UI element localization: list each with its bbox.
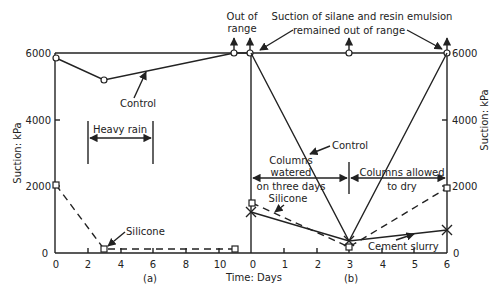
heavy-rain-label: Heavy rain [93,124,147,135]
series-silicone-a [53,182,238,252]
xtick-b-0: 0 [250,259,256,270]
silicone-label-b: Silicone [269,193,308,204]
xtick-b-6: 6 [444,259,450,270]
xtick-b-5: 5 [412,259,418,270]
y-axis-title-right: Suction: kPa [479,89,490,150]
out-of-range-arrows [234,38,250,50]
xtick-a-4: 4 [118,259,124,270]
panel-label-b: (b) [344,273,358,284]
ytick-right-4000: 4000 [452,115,477,126]
out-of-range-label-1: Out of [227,11,258,22]
ytick-left-2000: 2000 [26,181,51,192]
xtick-b-1: 1 [282,259,288,270]
silicone-label-a: Silicone [126,226,165,237]
control-label-a: Control [120,98,156,109]
columns-dry-label-1: Columns allowed [359,167,444,178]
xtick-a-6: 6 [150,259,156,270]
ytick-right-0: 0 [453,248,459,259]
silane-label-1: Suction of silane and resin emulsion [272,11,453,22]
axes [55,53,447,253]
ytick-left-4000: 4000 [26,115,51,126]
cement-slurry-label: Cement slurry [368,241,439,252]
xtick-a-10: 10 [214,259,227,270]
x-axis-title: Time: Days [225,272,282,283]
xtick-a-2: 2 [85,259,91,270]
series-control-a [53,50,253,83]
ytick-right-2000: 2000 [452,181,477,192]
ytick-left-6000: 6000 [26,48,51,59]
ytick-right-6000: 6000 [452,48,477,59]
silane-label-2: remained out of range [293,25,405,36]
xtick-a-8: 8 [183,259,189,270]
y-axis-title-left: Suction: kPa [12,122,23,183]
suction-chart: 6000 4000 2000 0 6000 4000 2000 0 Suctio… [0,0,496,296]
columns-watered-label-3: on three days [257,181,326,192]
panel-label-a: (a) [143,273,157,284]
control-label-b: Control [332,140,368,151]
xtick-a-0: 0 [53,259,59,270]
xtick-b-2: 2 [315,259,321,270]
out-of-range-label-2: range [227,23,256,34]
columns-dry-label-2: to dry [387,181,417,192]
xtick-b-4: 4 [380,259,386,270]
ytick-left-0: 0 [42,248,48,259]
xtick-b-3: 3 [347,259,353,270]
columns-watered-label-1: Columns [269,155,313,166]
columns-watered-label-2: watered [271,167,312,178]
